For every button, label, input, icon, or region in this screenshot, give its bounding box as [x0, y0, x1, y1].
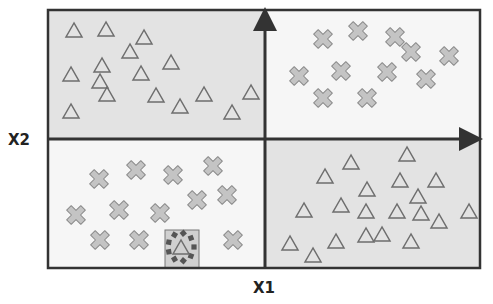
quadrant-diagram: X2 X1 [0, 0, 493, 304]
y-axis-label: X2 [8, 131, 30, 149]
plot-area [0, 0, 493, 304]
dashed-circle-segment [191, 244, 196, 249]
x-axis-label: X1 [253, 279, 275, 297]
highlighted-outlier [165, 230, 199, 268]
dashed-circle-segment [166, 249, 172, 255]
dashed-circle-segment [166, 239, 172, 245]
